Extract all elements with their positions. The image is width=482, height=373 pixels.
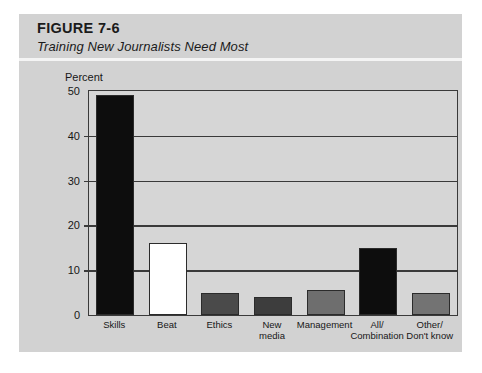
bar xyxy=(96,95,134,315)
bar-chart: Percent 01020304050 SkillsBeatEthicsNew … xyxy=(19,61,462,352)
figure-panel: FIGURE 7-6 Training New Journalists Need… xyxy=(19,14,462,352)
bar xyxy=(307,290,345,315)
figure-number: FIGURE 7-6 xyxy=(37,20,462,37)
y-tick-label: 20 xyxy=(68,219,80,231)
y-tick-label: 10 xyxy=(68,264,80,276)
y-tick-label: 40 xyxy=(68,130,80,142)
y-axis-title: Percent xyxy=(65,71,103,83)
bar xyxy=(359,248,397,315)
x-axis-label: Other/ Don't know xyxy=(395,319,464,341)
plot-area: 01020304050 xyxy=(88,90,458,316)
figure-subtitle: Training New Journalists Need Most xyxy=(37,38,462,55)
figure-header: FIGURE 7-6 Training New Journalists Need… xyxy=(19,14,462,61)
y-tick-label: 30 xyxy=(68,175,80,187)
y-tick-label: 50 xyxy=(68,85,80,97)
bar xyxy=(149,243,187,315)
bars-group xyxy=(89,91,457,315)
bar xyxy=(254,297,292,315)
bar xyxy=(201,293,239,315)
bar xyxy=(412,293,450,315)
